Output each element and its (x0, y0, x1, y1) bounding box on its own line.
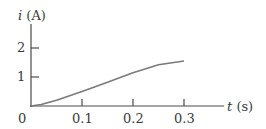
y-axis-label: i (A) (18, 9, 46, 22)
x-tick-label: 0.2 (123, 112, 144, 125)
x-tick-label: 0.1 (72, 112, 93, 125)
origin-label: 0 (18, 112, 26, 125)
y-tick-label: 2 (17, 41, 25, 54)
x-axis-label: t (s) (227, 100, 253, 113)
x-tick-label: 0.3 (174, 112, 195, 125)
x-ticks (82, 99, 184, 106)
y-ticks (31, 48, 39, 77)
y-tick-label: 1 (17, 70, 25, 83)
current-curve (31, 61, 184, 106)
